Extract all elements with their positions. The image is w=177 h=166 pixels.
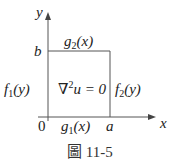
left-boundary-label: f1(y) — [4, 81, 30, 99]
figure-caption: 圖 11-5 — [67, 144, 113, 160]
origin-label: 0 — [38, 118, 46, 134]
y-axis-label: y — [34, 4, 43, 20]
right-boundary-label: f2(y) — [115, 81, 141, 99]
y-axis-arrow-icon — [45, 12, 51, 20]
bottom-boundary-label: g1(x) — [61, 118, 90, 136]
laplace-domain-diagram: y x 0 b a g2(x) g1(x) f1(y) f2(y) ∇2u = … — [0, 0, 177, 166]
corner-b-label: b — [34, 43, 42, 59]
corner-a-label: a — [106, 118, 114, 134]
x-axis-label: x — [159, 115, 167, 131]
x-axis-arrow-icon — [148, 114, 156, 120]
top-boundary-label: g2(x) — [64, 33, 93, 51]
laplace-equation: ∇2u = 0 — [58, 79, 107, 97]
